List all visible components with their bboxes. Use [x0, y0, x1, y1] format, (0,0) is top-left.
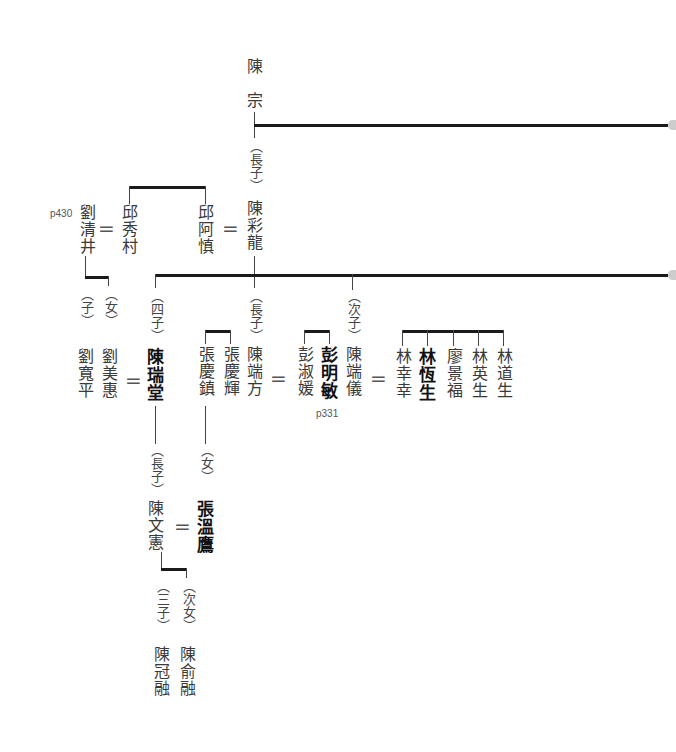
gen4-name: 陳冠融	[152, 646, 168, 697]
gen4-name: 陳俞融	[178, 646, 194, 697]
connector	[85, 256, 86, 278]
connector	[205, 330, 206, 344]
marriage-symbol: =	[125, 368, 142, 392]
zhang-brother: 張慶輝	[222, 346, 238, 397]
gen4-relation: （三子）	[154, 580, 170, 632]
page-ref: p331	[316, 408, 338, 419]
page-ref: p430	[50, 208, 72, 219]
lin-member: 林幸幸	[394, 348, 410, 399]
gen4-relation: （次女）	[180, 580, 196, 632]
liu-qingjing: 劉清井	[78, 204, 94, 255]
liu-children-line	[85, 276, 109, 279]
gen1-name: 陳彩龍	[245, 200, 261, 251]
root-given: 宗	[245, 92, 261, 109]
peng-sibling: 彭淑媛	[296, 346, 312, 397]
gen2-relation: （長子）	[247, 290, 263, 342]
connector	[329, 330, 330, 344]
peng-siblings-line	[304, 330, 330, 333]
connector	[205, 406, 206, 444]
page-edge-marker	[668, 270, 676, 280]
connector	[478, 330, 479, 346]
liu-child-relation: （子）	[78, 288, 94, 327]
gen3-relation: （長子）	[148, 444, 164, 496]
zhang-brothers-line	[205, 330, 231, 333]
connector	[304, 330, 305, 344]
connector	[453, 330, 454, 346]
branch-line-top	[254, 124, 668, 127]
gen2-name: 陳瑞堂	[146, 348, 162, 402]
connector	[352, 274, 353, 290]
connector	[129, 186, 130, 204]
lin-member: 廖景福	[445, 348, 461, 399]
connector	[108, 276, 109, 286]
gen2-relation: （四子）	[148, 290, 164, 342]
liu-child-name: 劉寬平	[76, 348, 92, 399]
connector	[402, 330, 403, 346]
connector	[155, 406, 156, 444]
marriage-symbol: =	[222, 216, 239, 240]
liu-child-relation: （女）	[102, 288, 118, 327]
gen3-spouse: 張溫鷹	[196, 500, 212, 554]
gen1-spouse: 邱阿慎	[196, 204, 212, 255]
gen3-name: 陳文憲	[146, 500, 162, 551]
liu-child-name: 劉美惠	[100, 348, 116, 399]
marriage-symbol: =	[270, 366, 287, 390]
connector	[503, 330, 504, 346]
gen4-line	[161, 568, 187, 571]
marriage-symbol: =	[370, 366, 387, 390]
peng-sibling: 彭明敏	[320, 346, 336, 400]
connector	[186, 568, 187, 578]
zhang-brother: 張慶鎮	[197, 346, 213, 397]
marriage-symbol: =	[174, 514, 191, 538]
lin-member: 林恆生	[418, 348, 434, 402]
branch-line-gen2	[155, 274, 668, 277]
lin-member: 林英生	[470, 348, 486, 399]
lin-member: 林道生	[495, 348, 511, 399]
gen2-name: 陳端方	[245, 346, 261, 397]
root-surname: 陳	[245, 58, 261, 75]
connector	[205, 186, 206, 204]
connector	[155, 274, 156, 288]
connector	[230, 330, 231, 344]
qiu-siblings-line	[129, 186, 206, 189]
gen2-relation: （次子）	[345, 290, 361, 342]
connector	[254, 256, 255, 288]
gen3-spouse-relation: （女）	[198, 444, 214, 483]
gen1-relation: （長子）	[247, 140, 263, 192]
page-edge-marker	[668, 120, 676, 130]
connector	[427, 330, 428, 346]
marriage-symbol: =	[98, 216, 115, 240]
gen2-name: 陳端儀	[344, 346, 360, 397]
gen1-spouse-sibling: 邱秀村	[120, 204, 136, 255]
